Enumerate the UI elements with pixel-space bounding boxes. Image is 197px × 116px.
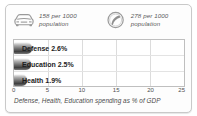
bar-label-defense: Defense 2.6% — [22, 45, 67, 52]
stat-telephones-value-line2: population — [131, 20, 169, 28]
x-axis-tick-10: 10 — [78, 87, 85, 93]
stat-cars-value-line1: 158 per 1000 — [39, 12, 77, 19]
car-icon — [13, 10, 35, 30]
bar-row-education: Education 2.5% — [14, 56, 184, 72]
stat-cars-value: 158 per 1000 population — [39, 12, 77, 27]
bar-row-defense: Defense 2.6% — [14, 40, 184, 56]
bar-row-health: Health 1.9% — [14, 72, 184, 88]
stat-telephones: 278 per 1000 population — [105, 10, 185, 30]
stat-telephones-value-line1: 278 per 1000 — [131, 12, 169, 19]
telephone-icon — [105, 10, 127, 30]
x-axis-tick-0: 0 — [12, 87, 15, 93]
x-axis-tick-5: 5 — [46, 87, 49, 93]
stat-cars: 158 per 1000 population — [13, 10, 105, 30]
stats-strip: 158 per 1000 population 278 per 1000 pop… — [10, 8, 187, 38]
chart-caption: Defense, Health, Education spending as %… — [14, 97, 185, 104]
bar-chart-plot-area: Defense 2.6% Education 2.5% Health 1.9% — [13, 39, 185, 87]
card-frame: 158 per 1000 population 278 per 1000 pop… — [5, 4, 192, 113]
x-axis-tick-20: 20 — [147, 87, 154, 93]
bar-label-health: Health 1.9% — [22, 77, 61, 84]
infographic-card: 158 per 1000 population 278 per 1000 pop… — [0, 0, 197, 116]
x-axis-tick-15: 15 — [113, 87, 120, 93]
x-axis-tick-25: 25 — [178, 87, 185, 93]
stat-cars-value-line2: population — [39, 20, 77, 28]
stat-telephones-value: 278 per 1000 population — [131, 12, 169, 27]
x-axis: 0 5 10 15 20 25 — [13, 87, 185, 97]
chart-bars: Defense 2.6% Education 2.5% Health 1.9% — [14, 40, 184, 86]
bar-label-education: Education 2.5% — [22, 61, 74, 68]
